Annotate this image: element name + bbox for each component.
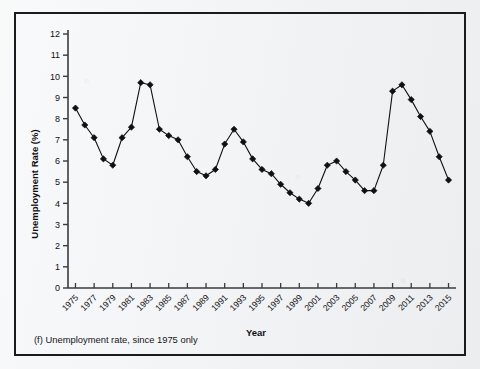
x-tick-label: 1997 — [265, 292, 286, 313]
data-point-marker — [436, 154, 442, 160]
x-tick-label: 2007 — [358, 292, 379, 313]
x-tick-label: 2015 — [433, 292, 454, 313]
y-tick-label: 7 — [55, 135, 60, 145]
y-tick-label: 2 — [55, 241, 60, 251]
x-tick-label: 1975 — [60, 292, 81, 313]
y-axis: 0123456789101112 — [50, 29, 68, 293]
x-tick-label: 1987 — [172, 292, 193, 313]
data-point-marker — [371, 188, 377, 194]
data-point-marker — [156, 126, 162, 132]
y-tick-label: 4 — [55, 199, 60, 209]
y-tick-label: 9 — [55, 93, 60, 103]
data-point-marker — [100, 156, 106, 162]
x-axis-title: Year — [246, 327, 266, 338]
y-tick-label: 12 — [50, 29, 60, 39]
series-line — [75, 83, 448, 204]
y-tick-label: 5 — [55, 177, 60, 187]
x-tick-label: 1985 — [153, 292, 174, 313]
x-tick-label: 2013 — [414, 292, 435, 313]
data-point-marker — [175, 137, 181, 143]
data-point-marker — [296, 196, 302, 202]
data-point-marker — [212, 166, 218, 172]
y-tick-label: 0 — [55, 283, 60, 293]
x-tick-label: 2001 — [302, 292, 323, 313]
data-point-marker — [184, 154, 190, 160]
data-point-marker — [147, 82, 153, 88]
data-point-marker — [110, 162, 116, 168]
data-point-marker — [380, 162, 386, 168]
x-tick-label: 2003 — [321, 292, 342, 313]
data-point-marker — [222, 141, 228, 147]
x-tick-label: 2005 — [340, 292, 361, 313]
data-point-marker — [417, 113, 423, 119]
data-point-marker — [194, 168, 200, 174]
data-point-marker — [427, 128, 433, 134]
y-tick-label: 8 — [55, 114, 60, 124]
x-axis: 1975197719791981198319851987198919911993… — [60, 283, 456, 313]
data-series-unemployment-rate — [72, 80, 451, 207]
scanned-page: 0123456789101112 19751977197919811983198… — [0, 0, 480, 369]
data-point-marker — [203, 173, 209, 179]
line-chart: 0123456789101112 19751977197919811983198… — [16, 14, 468, 358]
data-point-marker — [306, 200, 312, 206]
x-tick-label: 1977 — [78, 292, 99, 313]
data-point-marker — [315, 185, 321, 191]
chart-plot-area: 0123456789101112 19751977197919811983198… — [16, 14, 468, 358]
data-point-marker — [72, 105, 78, 111]
y-tick-label: 11 — [51, 50, 60, 60]
y-axis-title: Unemployment Rate (%) — [29, 129, 40, 238]
data-point-marker — [445, 177, 451, 183]
y-tick-label: 6 — [55, 156, 60, 166]
x-tick-label: 1979 — [97, 292, 118, 313]
data-point-marker — [138, 80, 144, 86]
x-tick-label: 1999 — [284, 292, 305, 313]
data-point-marker — [389, 88, 395, 94]
y-tick-label: 10 — [50, 72, 60, 82]
x-tick-label: 1993 — [228, 292, 249, 313]
y-tick-label: 1 — [55, 262, 60, 272]
figure-frame: 0123456789101112 19751977197919811983198… — [14, 12, 466, 356]
x-tick-label: 2011 — [396, 292, 416, 312]
x-tick-label: 2009 — [377, 292, 398, 313]
x-tick-label: 1995 — [246, 292, 267, 313]
data-point-marker — [408, 97, 414, 103]
y-tick-label: 3 — [55, 220, 60, 230]
data-point-marker — [399, 82, 405, 88]
x-tick-label: 1983 — [134, 292, 155, 313]
x-tick-label: 1989 — [190, 292, 211, 313]
x-tick-label: 1991 — [209, 292, 230, 313]
data-point-marker — [324, 162, 330, 168]
figure-caption: (f) Unemployment rate, since 1975 only — [34, 334, 198, 345]
data-point-marker — [166, 133, 172, 139]
x-tick-label: 1981 — [116, 292, 137, 313]
